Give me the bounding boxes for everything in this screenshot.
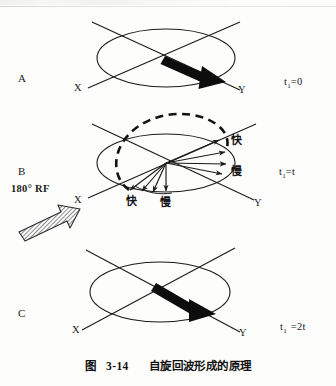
panel-b-slow-label-bottom: 慢 bbox=[160, 193, 171, 209]
panel-c-magnetization-vector bbox=[151, 283, 216, 322]
rf-pulse-label: 180° RF bbox=[11, 183, 50, 194]
panel-b-letter: B bbox=[18, 165, 25, 177]
figure-caption: 图3-14自旋回波形成的原理 bbox=[0, 357, 336, 373]
panel-a-group bbox=[88, 22, 240, 90]
panel-a-time-label: t1=0 bbox=[284, 76, 302, 90]
panel-a-axis-x-label: X bbox=[74, 82, 82, 93]
vector-fan-upper-2 bbox=[166, 152, 225, 163]
panel-b-time-value: =t bbox=[286, 166, 295, 177]
panel-c-axis-y-label: Y bbox=[239, 327, 247, 338]
rf-pulse-arrow bbox=[19, 205, 80, 241]
panel-c-time-sub: 1 bbox=[283, 327, 287, 335]
panel-b-fast-label-right: 快 bbox=[231, 131, 242, 147]
panel-a-axis-y-label: Y bbox=[238, 84, 246, 95]
caption-label: 图 bbox=[85, 359, 96, 373]
panel-a-magnetization-vector bbox=[161, 56, 227, 89]
panel-b-slow-label-right: 慢 bbox=[231, 162, 242, 178]
panel-c-letter: C bbox=[18, 307, 25, 319]
panel-c-axis-x-label: X bbox=[72, 324, 80, 335]
vector-fan-lower-2 bbox=[142, 163, 166, 191]
caption-number: 3-14 bbox=[106, 360, 129, 372]
vector-fan-upper-3 bbox=[166, 163, 226, 164]
panel-b-group bbox=[19, 114, 256, 241]
vector-fan-upper-1 bbox=[166, 140, 219, 163]
panel-a-letter: A bbox=[18, 72, 26, 84]
panel-a-time-value: =0 bbox=[291, 76, 303, 87]
panel-c-group bbox=[82, 248, 240, 332]
panel-b-axis-x-label: X bbox=[74, 194, 82, 205]
panel-c-time-value: =2t bbox=[291, 321, 306, 332]
panel-c-time-label: t1=2t bbox=[280, 321, 306, 335]
panel-b-time-label: t1=t bbox=[279, 166, 295, 180]
panel-b-axis-y-label: Y bbox=[254, 197, 262, 208]
caption-title: 自旋回波形成的原理 bbox=[149, 359, 252, 373]
panel-b-fast-label-bottom: 快 bbox=[126, 192, 137, 208]
figure-root: A X Y t1=0 B 180° RF X Y 快 慢 快 慢 t1=t C … bbox=[0, 0, 336, 386]
